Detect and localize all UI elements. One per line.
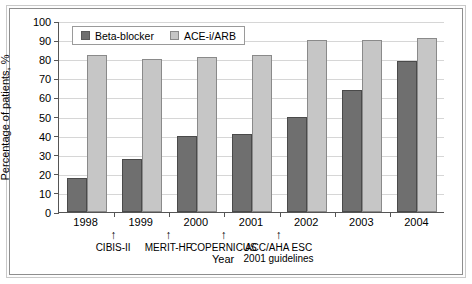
- y-axis-tick: 0: [45, 207, 59, 219]
- bar-group: [59, 22, 114, 212]
- chart-plot-wrapper: Percentage of patients, % 10090807060504…: [0, 0, 472, 284]
- y-axis-tick-label: 70: [39, 73, 51, 85]
- y-axis-tick-label: 30: [39, 150, 51, 162]
- bar-beta-blocker-2003: [342, 90, 362, 212]
- bar-ace-i-arb-2001: [252, 55, 272, 212]
- annotation-cibis-ii: ↑CIBIS-II: [96, 231, 131, 253]
- y-axis-tick: 20: [39, 169, 59, 181]
- x-axis-title: Year: [212, 253, 234, 265]
- bar-ace-i-arb-2002: [307, 40, 327, 212]
- chart-figure: Percentage of patients, % 10090807060504…: [0, 0, 472, 284]
- x-axis-tick-label-2001: 2001: [239, 216, 263, 228]
- legend-swatch-beta-blocker: [81, 31, 90, 40]
- legend-label-beta-blocker: Beta-blocker: [95, 30, 154, 42]
- bar-group: [390, 22, 445, 212]
- y-axis-tick: 40: [39, 131, 59, 143]
- bar-group: [169, 22, 224, 212]
- annotation-label: MERIT-HF: [145, 242, 192, 253]
- bar-beta-blocker-2001: [232, 134, 252, 212]
- x-axis-tick-label-2002: 2002: [294, 216, 318, 228]
- y-axis-tick: 90: [39, 35, 59, 47]
- bar-ace-i-arb-1999: [142, 59, 162, 212]
- bar-group: [224, 22, 279, 212]
- bar-ace-i-arb-2003: [362, 40, 382, 212]
- x-axis-tick-label-2003: 2003: [349, 216, 373, 228]
- y-axis-tick-label: 50: [39, 112, 51, 124]
- arrow-up-icon: ↑: [244, 231, 314, 242]
- bar-beta-blocker-2000: [177, 136, 197, 212]
- y-axis-tick-label: 90: [39, 35, 51, 47]
- y-axis-tick-label: 10: [39, 188, 51, 200]
- y-axis-tick: 30: [39, 150, 59, 162]
- y-axis-tick-mark: [54, 213, 59, 214]
- y-axis-tick: 70: [39, 73, 59, 85]
- legend-label-ace-i-arb: ACE-i/ARB: [184, 30, 236, 42]
- bar-group: [114, 22, 169, 212]
- bar-beta-blocker-1998: [67, 178, 87, 212]
- annotation-label: CIBIS-II: [96, 242, 131, 253]
- y-axis-title: Percentage of patients, %: [0, 22, 12, 213]
- x-axis-tick-mark: [114, 212, 115, 217]
- y-axis-tick-label: 0: [45, 207, 51, 219]
- x-axis-tick-label-1998: 1998: [73, 216, 97, 228]
- y-axis-tick: 80: [39, 54, 59, 66]
- legend-item-beta-blocker: Beta-blocker: [81, 30, 154, 42]
- chart-legend: Beta-blocker ACE-i/ARB: [72, 26, 245, 45]
- bar-ace-i-arb-1998: [87, 55, 107, 212]
- arrow-up-icon: ↑: [96, 231, 131, 242]
- bar-group: [280, 22, 335, 212]
- y-axis-tick: 60: [39, 92, 59, 104]
- plot-area: 1009080706050403020100: [58, 22, 444, 213]
- annotation-acc-aha-esc: ↑ACC/AHA ESC 2001 guidelines: [244, 231, 314, 264]
- x-axis-tick-mark: [390, 212, 391, 217]
- y-axis-tick: 50: [39, 112, 59, 124]
- x-axis-tick-mark: [169, 212, 170, 217]
- bar-beta-blocker-1999: [122, 159, 142, 212]
- y-axis-tick-label: 40: [39, 131, 51, 143]
- bar-beta-blocker-2004: [397, 61, 417, 212]
- annotation-merit-hf: ↑MERIT-HF: [145, 231, 192, 253]
- y-axis-tick: 100: [33, 16, 59, 28]
- legend-swatch-ace-i-arb: [170, 31, 179, 40]
- legend-item-ace-i-arb: ACE-i/ARB: [170, 30, 236, 42]
- y-axis-tick-label: 100: [33, 16, 51, 28]
- x-axis-tick-label-2004: 2004: [404, 216, 428, 228]
- y-axis-tick: 10: [39, 188, 59, 200]
- bar-group: [335, 22, 390, 212]
- bar-ace-i-arb-2004: [417, 38, 437, 212]
- bar-ace-i-arb-2000: [197, 57, 217, 212]
- x-axis-tick-mark: [280, 212, 281, 217]
- x-axis-tick-mark: [335, 212, 336, 217]
- x-axis-tick-mark: [224, 212, 225, 217]
- y-axis-tick-label: 60: [39, 92, 51, 104]
- y-axis-tick-label: 80: [39, 54, 51, 66]
- bar-beta-blocker-2002: [287, 117, 307, 213]
- annotation-label: ACC/AHA ESC 2001 guidelines: [244, 242, 314, 264]
- x-axis-tick-label-1999: 1999: [128, 216, 152, 228]
- y-axis-tick-label: 20: [39, 169, 51, 181]
- arrow-up-icon: ↑: [145, 231, 192, 242]
- x-axis-tick-label-2000: 2000: [184, 216, 208, 228]
